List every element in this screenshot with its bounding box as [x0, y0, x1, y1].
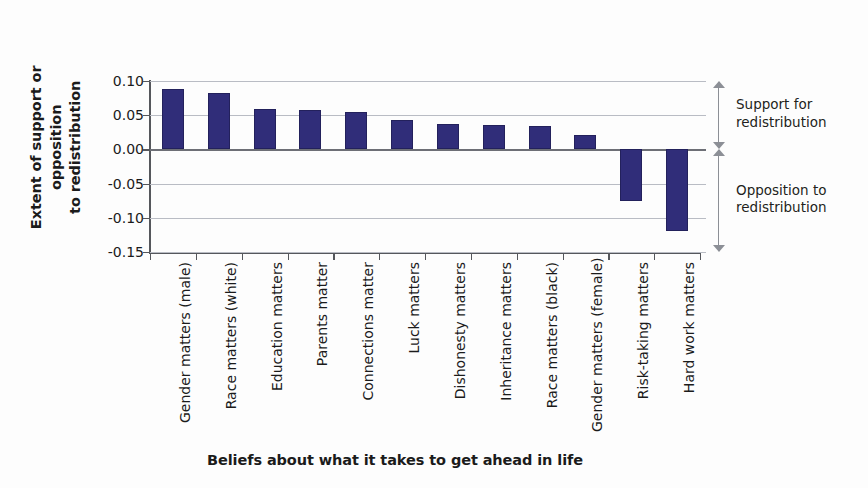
bar: [299, 110, 321, 149]
y-tick-mark: [143, 218, 150, 219]
y-tick-label: -0.15: [92, 245, 144, 259]
x-category-label: Race matters (white): [224, 262, 238, 432]
x-tick-mark: [700, 253, 701, 260]
gridline: [150, 115, 706, 116]
bar: [162, 89, 184, 149]
bar-chart-figure: Extent of support or opposition to redis…: [0, 0, 868, 488]
double-arrow-icon: [712, 149, 726, 252]
arrow-head-down-icon: [713, 245, 725, 252]
y-axis-line: [149, 80, 151, 253]
y-axis-title-line2: to redistribution: [66, 27, 86, 267]
x-tick-mark: [196, 253, 197, 260]
x-category-label: Luck matters: [407, 262, 421, 432]
y-tick-mark: [143, 115, 150, 116]
gridline: [150, 81, 706, 82]
x-category-label: Parents matter: [315, 262, 329, 432]
x-axis-category-labels: Gender matters (male)Race matters (white…: [150, 262, 710, 432]
y-axis-title-line1: Extent of support or opposition: [27, 27, 66, 267]
y-tick-label: 0.10: [92, 74, 144, 88]
y-axis-title: Extent of support or opposition to redis…: [8, 0, 100, 300]
x-tick-mark: [288, 253, 289, 260]
double-arrow-icon: [712, 81, 726, 149]
arrow-head-down-icon: [713, 142, 725, 149]
arrow-head-up-icon: [713, 81, 725, 88]
x-tick-mark: [608, 253, 609, 260]
x-tick-mark: [517, 253, 518, 260]
y-tick-label: -0.05: [92, 177, 144, 191]
bar: [208, 93, 230, 150]
x-tick-mark: [471, 253, 472, 260]
annotation-line1: Opposition to: [736, 182, 861, 200]
bar: [437, 124, 459, 149]
bar: [666, 149, 688, 230]
plot-area: [150, 81, 700, 252]
gridline: [150, 252, 706, 253]
y-tick-mark: [143, 81, 150, 82]
y-tick-mark: [143, 252, 150, 253]
bar: [620, 149, 642, 200]
x-category-label: Hard work matters: [682, 262, 696, 432]
x-tick-mark: [333, 253, 334, 260]
x-category-label: Risk-taking matters: [636, 262, 650, 432]
arrow-shaft: [718, 155, 719, 246]
bar: [529, 126, 551, 149]
bar: [391, 120, 413, 149]
y-tick-label: -0.10: [92, 211, 144, 225]
x-tick-mark: [654, 253, 655, 260]
x-category-label: Gender matters (male): [178, 262, 192, 432]
x-category-label: Education matters: [270, 262, 284, 432]
y-tick-label: 0.00: [92, 142, 144, 156]
y-tick-mark: [143, 184, 150, 185]
y-tick-label: 0.05: [92, 108, 144, 122]
annotation-support-for-redistribution: Support forredistribution: [736, 96, 861, 131]
x-category-label: Gender matters (female): [590, 262, 604, 432]
bar: [345, 112, 367, 150]
gridline: [150, 218, 706, 219]
y-tick-mark: [143, 149, 150, 150]
x-category-label: Dishonesty matters: [453, 262, 467, 432]
x-tick-mark: [379, 253, 380, 260]
x-tick-mark: [563, 253, 564, 260]
annotation-line1: Support for: [736, 96, 861, 114]
x-category-label: Connections matter: [361, 262, 375, 432]
x-axis-title: Beliefs about what it takes to get ahead…: [0, 452, 790, 468]
bar: [254, 109, 276, 149]
annotation-line2: redistribution: [736, 199, 861, 217]
annotation-line2: redistribution: [736, 114, 861, 132]
x-tick-mark: [150, 253, 151, 260]
annotation-opposition-to-redistribution: Opposition toredistribution: [736, 182, 861, 217]
arrow-shaft: [718, 87, 719, 143]
arrow-head-up-icon: [713, 149, 725, 156]
y-axis-tick-labels: 0.100.050.00-0.05-0.10-0.15: [88, 81, 144, 256]
x-category-label: Race matters (black): [545, 262, 559, 432]
bar: [574, 135, 596, 149]
x-tick-mark: [242, 253, 243, 260]
x-category-label: Inheritance matters: [499, 262, 513, 432]
x-tick-mark: [425, 253, 426, 260]
bar: [483, 125, 505, 149]
